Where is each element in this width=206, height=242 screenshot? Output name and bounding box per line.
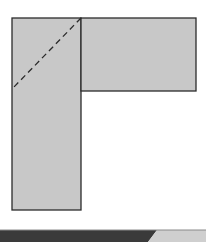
l-shape-diagram bbox=[0, 0, 206, 242]
vertical-rectangle bbox=[12, 18, 81, 210]
bottom-bar bbox=[0, 230, 206, 242]
bottom-bar-dark-section bbox=[0, 230, 157, 242]
horizontal-rectangle bbox=[81, 18, 196, 91]
bottom-bar-light-section bbox=[148, 230, 206, 242]
